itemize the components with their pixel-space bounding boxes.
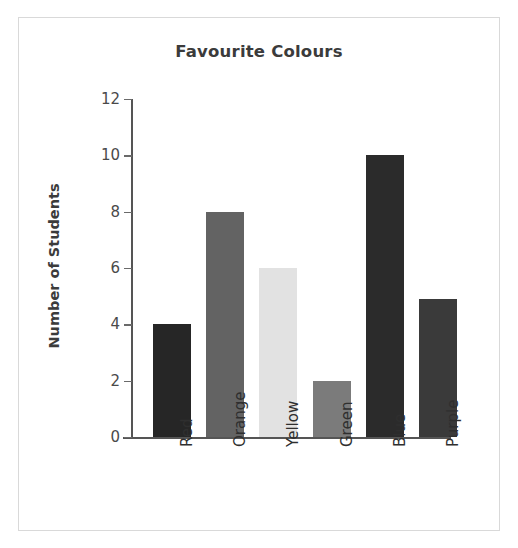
x-tick-label-yellow: Yellow [284,401,302,447]
x-tick-label-orange: Orange [231,392,249,447]
y-tick-label: 2 [110,371,120,389]
chart-title: Favourite Colours [0,42,518,61]
y-tick-label: 4 [110,315,120,333]
x-tick-label-blue: Blue [391,414,409,447]
y-axis-label: Number of Students [46,166,62,366]
x-tick-label-red: Red [178,419,196,448]
chart-figure: Favourite Colours Number of Students 024… [0,0,518,548]
y-tick-mark [124,268,132,269]
y-tick-mark [124,99,132,100]
y-tick-mark [124,324,132,325]
y-tick-label: 6 [110,259,120,277]
plot-area: 024681012 RedOrangeYellowGreenBluePurple [131,99,451,437]
y-tick-mark [124,212,132,213]
bar-blue [366,155,404,437]
y-tick-mark [124,155,132,156]
y-tick-label: 12 [101,90,120,108]
x-tick-label-purple: Purple [444,400,462,447]
x-tick-label-green: Green [338,402,356,447]
y-tick-mark [124,381,132,382]
y-tick-label: 0 [110,428,120,446]
y-tick-label: 10 [101,146,120,164]
y-tick-label: 8 [110,202,120,220]
y-tick-mark [124,437,132,438]
